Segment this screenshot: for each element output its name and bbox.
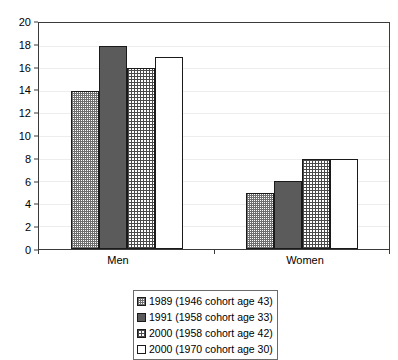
legend-item[interactable]: 1989 (1946 cohort age 43) bbox=[137, 293, 274, 309]
y-tick-label: 18 bbox=[19, 39, 31, 50]
bar bbox=[155, 57, 183, 249]
bar bbox=[99, 46, 127, 249]
bar bbox=[127, 68, 155, 249]
y-tick-label: 8 bbox=[25, 153, 31, 164]
bar bbox=[71, 91, 99, 249]
plot-inner bbox=[39, 23, 389, 249]
y-tick-label: 20 bbox=[19, 17, 31, 28]
y-axis: 20 18 16 14 12 10 8 6 4 2 0 bbox=[0, 22, 38, 250]
legend-item[interactable]: 1991 (1958 cohort age 33) bbox=[137, 309, 274, 325]
white-swatch-icon bbox=[137, 345, 146, 354]
y-tick-label: 12 bbox=[19, 108, 31, 119]
gridline bbox=[39, 68, 389, 69]
x-tick-label-men: Men bbox=[107, 254, 128, 267]
plot-area bbox=[38, 22, 390, 250]
gridline bbox=[39, 46, 389, 47]
legend-item-label: 1989 (1946 cohort age 43) bbox=[149, 295, 273, 307]
y-tick-label: 4 bbox=[25, 199, 31, 210]
legend-item[interactable]: 2000 (1970 cohort age 30) bbox=[137, 341, 274, 357]
solid-swatch-icon bbox=[137, 313, 146, 322]
bar bbox=[330, 159, 358, 249]
x-axis: Men Women bbox=[38, 254, 390, 274]
chart-legend: 1989 (1946 cohort age 43) 1991 (1958 coh… bbox=[133, 290, 278, 360]
bar bbox=[274, 181, 302, 249]
legend-item-label: 1991 (1958 cohort age 33) bbox=[149, 311, 273, 323]
x-tick-label-women: Women bbox=[286, 254, 324, 267]
stipple-swatch-icon bbox=[137, 297, 146, 306]
legend-item[interactable]: 2000 (1958 cohort age 42) bbox=[137, 325, 274, 341]
y-tick-label: 0 bbox=[25, 245, 31, 256]
grid-swatch-icon bbox=[137, 329, 146, 338]
legend-item-label: 2000 (1970 cohort age 30) bbox=[149, 343, 273, 355]
legend-item-label: 2000 (1958 cohort age 42) bbox=[149, 327, 273, 339]
y-tick-label: 10 bbox=[19, 131, 31, 142]
bar bbox=[246, 193, 274, 250]
y-tick-label: 14 bbox=[19, 85, 31, 96]
bar-chart: 20 18 16 14 12 10 8 6 4 2 0 Men Women bbox=[0, 0, 398, 360]
y-tick-label: 6 bbox=[25, 176, 31, 187]
y-tick-label: 2 bbox=[25, 222, 31, 233]
y-tick-label: 16 bbox=[19, 62, 31, 73]
bar bbox=[302, 159, 330, 249]
